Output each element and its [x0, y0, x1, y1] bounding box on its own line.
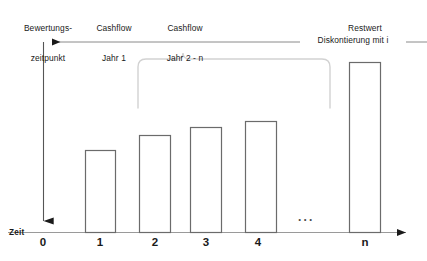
tick-label-2: 2: [135, 236, 175, 250]
bar-year-3: [191, 128, 222, 233]
ellipsis-indicator: ...: [298, 210, 328, 224]
bar-year-n: [350, 63, 381, 233]
tick-label-1: 1: [80, 236, 120, 250]
tick-label-n: n: [345, 236, 385, 250]
tick-label-3: 3: [186, 236, 226, 250]
cashflow-discounting-diagram: Bewertungs- zeitpunkt Cashflow Jahr 1 Ca…: [0, 0, 427, 261]
bar-year-2: [140, 136, 171, 233]
header-restwert: Restwert: [317, 4, 413, 54]
header-cashflow-jahr-2-n-line2: Jahr 2 - n: [137, 54, 233, 64]
discounting-label: Diskontierung mit i: [300, 36, 406, 46]
bar-year-4: [246, 122, 277, 233]
tick-label-0: 0: [23, 236, 63, 250]
header-cashflow-jahr-2-n: Cashflow Jahr 2 - n: [137, 4, 233, 83]
tick-label-4: 4: [238, 236, 278, 250]
header-cashflow-jahr-2-n-line1: Cashflow: [137, 24, 233, 34]
header-restwert-line1: Restwert: [317, 24, 413, 34]
bar-year-1: [86, 151, 116, 233]
